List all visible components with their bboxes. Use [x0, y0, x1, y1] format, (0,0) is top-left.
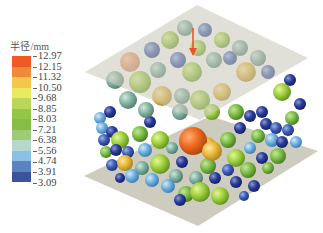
legend-swatch [12, 109, 31, 120]
legend-swatch [12, 130, 31, 141]
legend-swatch [12, 98, 31, 109]
legend-tick-label: 3.09 [33, 178, 62, 189]
legend-tick-labels: 12.9712.1511.3210.509.688.858.037.216.38… [33, 51, 62, 188]
top-plate [85, 5, 308, 120]
legend-swatch [12, 67, 31, 78]
legend-swatch [12, 88, 31, 99]
legend-swatch [12, 77, 31, 88]
legend-swatch [12, 140, 31, 151]
legend-swatch [12, 172, 31, 183]
legend-swatch [12, 151, 31, 162]
legend-swatch [12, 161, 31, 172]
legend-colorbar [12, 56, 31, 182]
legend-tick-label: 3.91 [33, 167, 62, 178]
legend-swatch [12, 56, 31, 67]
color-legend: 半径/mm 12.9712.1511.3210.509.688.858.037.… [10, 38, 80, 57]
legend-swatch [12, 119, 31, 130]
legend-tick-label: 12.97 [33, 51, 62, 62]
